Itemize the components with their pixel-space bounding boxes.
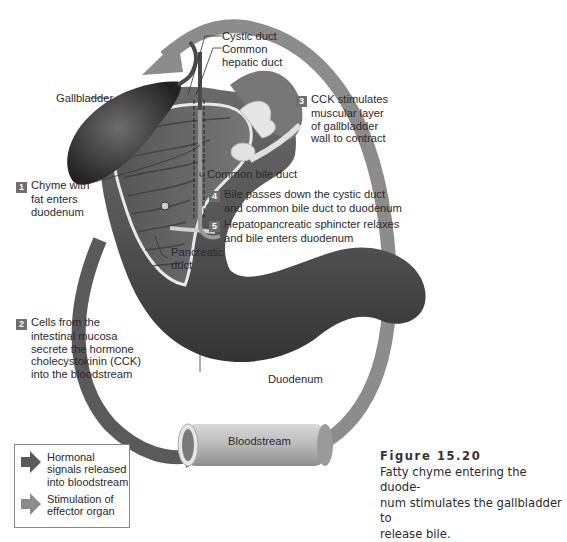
label-common-bile-duct: Common bile duct: [207, 168, 297, 181]
label-pancreatic-duct-line2: duct: [171, 259, 192, 272]
figure-caption: Figure 15.20 Fatty chyme entering the du…: [380, 449, 567, 542]
label-common-hepatic-duct-line2: hepatic duct: [222, 56, 282, 69]
step-number-badge: 3: [296, 96, 307, 107]
step-4: 4Bile passes down the cystic duct and co…: [209, 188, 402, 215]
dark-arrow-icon: [21, 451, 41, 473]
label-gallbladder: Gallbladder: [56, 92, 113, 105]
step-5: 5Hepatopancreatic sphincter relaxes and …: [209, 218, 399, 245]
step-2: 2Cells from the intestinal mucosa secret…: [16, 316, 141, 380]
label-cystic-duct: Cystic duct: [222, 30, 277, 43]
step-1: 1Chyme with fat enters duodenum: [16, 179, 89, 218]
light-arrow-icon: [21, 493, 41, 515]
step-number-badge: 1: [16, 182, 27, 193]
legend: Hormonal signals released into bloodstre…: [14, 444, 130, 528]
step-number-badge: 2: [16, 319, 27, 330]
label-duodenum: Duodenum: [268, 373, 323, 386]
label-pancreatic-duct-line1: Pancreatic: [171, 246, 224, 259]
label-common-hepatic-duct-line1: Common: [222, 43, 267, 56]
label-bloodstream: Bloodstream: [228, 435, 291, 447]
legend-item-hormonal: Hormonal signals released into bloodstre…: [21, 451, 128, 488]
legend-item-effector: Stimulation of effector organ: [21, 493, 115, 518]
step-number-badge: 4: [209, 191, 220, 202]
figure-number: Figure 15.20: [380, 449, 567, 463]
step-number-badge: 5: [209, 221, 220, 232]
step-3: 3CCK stimulates muscular layer of gallbl…: [296, 93, 388, 145]
